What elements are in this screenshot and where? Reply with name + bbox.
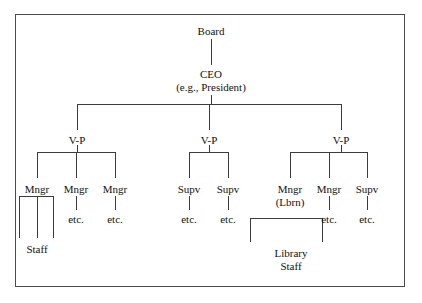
- node-etc-1-label: etc.: [68, 213, 84, 226]
- node-supv-right-1-label: Supv: [356, 183, 379, 196]
- node-supv-mid-2-label: Supv: [217, 183, 240, 196]
- node-mngr-right-2-label: Mngr: [317, 183, 341, 196]
- node-mngr-librarian-sublabel: (Lbrn): [276, 196, 305, 209]
- node-library-staff-label: Library: [275, 247, 308, 260]
- node-staff[interactable]: Staff: [26, 243, 47, 256]
- node-library-staff-sublabel: Staff: [275, 260, 308, 273]
- connector-vp-right-to-mngr2: [329, 152, 330, 178]
- node-board[interactable]: Board: [198, 25, 225, 38]
- node-ceo-label: CEO: [176, 68, 246, 81]
- connector-supv-m1-to-etc: [189, 196, 190, 210]
- node-vp-right-label: V-P: [333, 134, 350, 147]
- connector-vp-right-to-supv1: [367, 152, 368, 178]
- node-etc-6-label: etc.: [359, 213, 375, 226]
- node-vp-mid[interactable]: V-P: [201, 134, 218, 147]
- node-etc-5-label: etc.: [321, 213, 337, 226]
- node-etc-2: etc.: [107, 213, 123, 226]
- node-etc-1: etc.: [68, 213, 84, 226]
- node-etc-3: etc.: [181, 213, 197, 226]
- node-etc-2-label: etc.: [107, 213, 123, 226]
- node-etc-3-label: etc.: [181, 213, 197, 226]
- connector-vp-mid-bus: [189, 152, 229, 153]
- node-supv-mid-1-label: Supv: [178, 183, 201, 196]
- node-vp-mid-label: V-P: [201, 134, 218, 147]
- node-supv-right-1[interactable]: Supv: [356, 183, 379, 196]
- node-vp-left[interactable]: V-P: [69, 134, 86, 147]
- connector-vp-left-to-mngr1: [37, 152, 38, 178]
- connector-vp-left-to-mngr2: [76, 152, 77, 178]
- connector-supv-r1-to-etc: [367, 196, 368, 210]
- connector-vp-left-to-mngr3: [115, 152, 116, 178]
- diagram-border-frame: [15, 14, 405, 287]
- connector-board-to-ceo: [211, 39, 212, 65]
- node-board-label: Board: [198, 25, 225, 38]
- node-vp-right[interactable]: V-P: [333, 134, 350, 147]
- library-staff-bracket: [250, 218, 323, 242]
- node-mngr-left-1[interactable]: Mngr: [25, 183, 49, 196]
- node-mngr-right-2[interactable]: Mngr: [317, 183, 341, 196]
- staff-bracket-middle-line: [37, 196, 38, 238]
- node-etc-4-label: etc.: [220, 213, 236, 226]
- connector-bus-to-vp-mid: [209, 104, 210, 130]
- node-vp-left-label: V-P: [69, 134, 86, 147]
- node-etc-4: etc.: [220, 213, 236, 226]
- connector-mngr-l3-to-etc: [115, 196, 116, 210]
- org-chart-diagram: Board CEO (e.g., President) V-P V-P V-P …: [0, 0, 422, 303]
- node-etc-6: etc.: [359, 213, 375, 226]
- node-mngr-left-2[interactable]: Mngr: [64, 183, 88, 196]
- node-mngr-librarian-label: Mngr: [276, 183, 305, 196]
- node-supv-mid-1[interactable]: Supv: [178, 183, 201, 196]
- connector-vp-right-to-mngr1: [290, 152, 291, 178]
- connector-mngr-r2-to-etc: [329, 196, 330, 210]
- connector-supv-m2-to-etc: [228, 196, 229, 210]
- node-ceo[interactable]: CEO (e.g., President): [176, 68, 246, 93]
- node-library-staff[interactable]: Library Staff: [275, 247, 308, 272]
- node-mngr-librarian[interactable]: Mngr (Lbrn): [276, 183, 305, 208]
- node-mngr-left-2-label: Mngr: [64, 183, 88, 196]
- node-ceo-sublabel: (e.g., President): [176, 81, 246, 94]
- connector-bus-to-vp-left: [77, 104, 78, 130]
- node-mngr-left-1-label: Mngr: [25, 183, 49, 196]
- node-etc-5: etc.: [321, 213, 337, 226]
- connector-mngr-l2-to-etc: [76, 196, 77, 210]
- connector-bus-to-vp-right: [341, 104, 342, 130]
- connector-vp-mid-to-supv1: [189, 152, 190, 178]
- node-mngr-left-3[interactable]: Mngr: [103, 183, 127, 196]
- node-mngr-left-3-label: Mngr: [103, 183, 127, 196]
- connector-vp-mid-to-supv2: [228, 152, 229, 178]
- node-staff-label: Staff: [26, 243, 47, 256]
- node-supv-mid-2[interactable]: Supv: [217, 183, 240, 196]
